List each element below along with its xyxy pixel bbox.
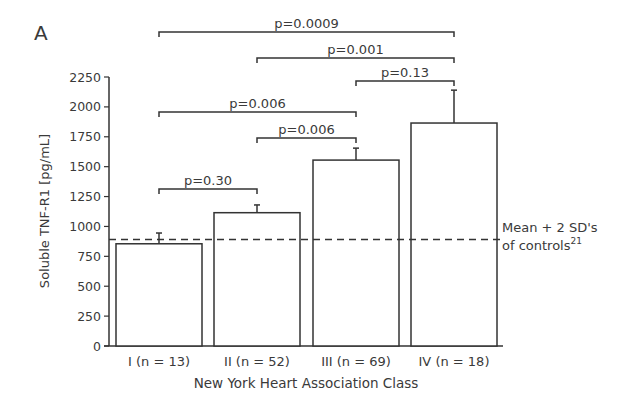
svg-text:Mean + 2 SD's: Mean + 2 SD's	[502, 220, 598, 235]
significance-brackets: p=0.30p=0.006p=0.006p=0.13p=0.001p=0.000…	[159, 16, 454, 194]
y-axis-title: Soluble TNF-R1 [pg/mL]	[37, 134, 52, 288]
x-tick-label: I (n = 13)	[128, 354, 190, 369]
bar	[214, 213, 300, 346]
x-tick-label: IV (n = 18)	[419, 354, 490, 369]
y-tick-label: 1250	[69, 189, 101, 204]
p-value-label: p=0.006	[278, 122, 334, 137]
y-tick-label: 0	[93, 339, 101, 354]
p-value-label: p=0.001	[327, 42, 383, 57]
p-value-label: p=0.006	[229, 96, 285, 111]
y-tick-label: 1750	[69, 129, 101, 144]
panel-label: A	[34, 21, 48, 45]
x-tick-label: III (n = 69)	[321, 354, 391, 369]
x-axis-labels: I (n = 13)II (n = 52)III (n = 69)IV (n =…	[128, 354, 490, 369]
bar-chart: A 0250500750100012501500175020002250 p=0…	[0, 0, 634, 415]
comparison-bracket	[257, 58, 454, 63]
y-tick-label: 2250	[69, 70, 101, 85]
x-axis-title: New York Heart Association Class	[194, 375, 419, 391]
comparison-bracket	[159, 32, 454, 37]
bar	[313, 160, 399, 346]
y-tick-label: 500	[77, 279, 101, 294]
y-tick-label: 2000	[69, 99, 101, 114]
x-tick-label: II (n = 52)	[224, 354, 290, 369]
comparison-bracket	[356, 81, 454, 86]
y-tick-label: 750	[77, 249, 101, 264]
p-value-label: p=0.13	[381, 65, 429, 80]
comparison-bracket	[159, 112, 356, 117]
bar	[116, 244, 202, 346]
p-value-label: p=0.0009	[274, 16, 339, 31]
y-tick-label: 1500	[69, 159, 101, 174]
y-tick-label: 1000	[69, 219, 101, 234]
y-tick-label: 250	[77, 309, 101, 324]
comparison-bracket	[159, 189, 257, 194]
bar	[411, 123, 497, 346]
p-value-label: p=0.30	[184, 173, 232, 188]
svg-text:of controls21: of controls21	[502, 236, 582, 253]
comparison-bracket	[257, 138, 356, 143]
reference-line-label: Mean + 2 SD's of controls21	[502, 220, 598, 253]
